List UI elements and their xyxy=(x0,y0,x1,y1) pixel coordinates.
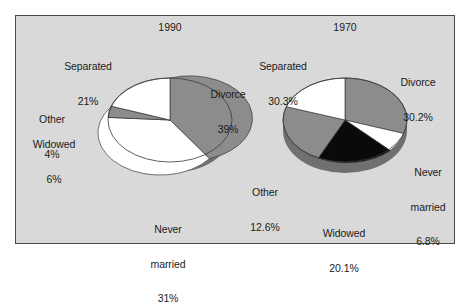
pie-1970-separated-name: Separated xyxy=(259,61,307,73)
pie-1970-label-never-married: Never married 6.8% xyxy=(411,144,446,271)
pie-1990-widowed-value: 6% xyxy=(33,174,76,186)
pie-1990-widowed-name: Widowed xyxy=(33,139,76,151)
pie-1970-label-widowed: Widowed 20.1% xyxy=(323,205,366,297)
pie-1970-label-separated: Separated 30.3% xyxy=(259,38,307,130)
pie-1970-label-divorce: Divorce 30.2% xyxy=(401,54,436,146)
pie-1970-never-name-2: married xyxy=(411,202,446,214)
pie-1990-divorce-value: 39% xyxy=(211,124,246,136)
pie-1970-divorce-value: 30.2% xyxy=(401,112,436,124)
pie-1970-widowed-name: Widowed xyxy=(323,228,366,240)
pie-1970-other-name: Other xyxy=(250,187,279,199)
pie-1970-divorce-name: Divorce xyxy=(401,77,436,89)
pie-1970-never-value: 6.8% xyxy=(411,236,446,248)
pie-1990-year-label: 1990 xyxy=(158,22,181,34)
pie-1970-widowed-value: 20.1% xyxy=(323,263,366,275)
pie-1990-separated-name: Separated xyxy=(64,61,112,73)
pie-1990-never-name-2: married xyxy=(151,259,186,271)
pie-1970-separated-value: 30.3% xyxy=(259,96,307,108)
pie-1990-separated-value: 21% xyxy=(64,96,112,108)
pie-1970-year-label: 1970 xyxy=(333,22,356,34)
pie-1990-never-name-1: Never xyxy=(151,224,186,236)
pie-1990-label-divorce: Divorce 39% xyxy=(211,66,246,158)
pie-1990-divorce-name: Divorce xyxy=(211,89,246,101)
pie-1990-label-never-married: Never married 31% xyxy=(151,201,186,306)
pie-1970-label-other: Other 12.6% xyxy=(250,164,279,256)
pie-1990-never-value: 31% xyxy=(151,293,186,305)
pie-1970-other-value: 12.6% xyxy=(250,222,279,234)
pie-1970-never-name-1: Never xyxy=(411,167,446,179)
pie-1990-label-widowed: Widowed 6% xyxy=(33,116,76,208)
